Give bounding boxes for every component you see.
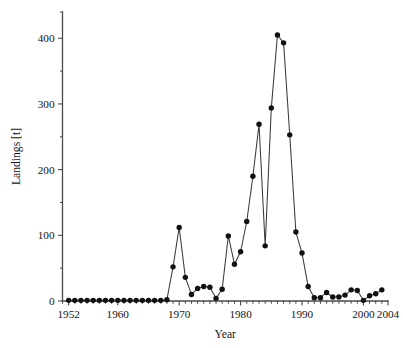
x-axis-title: Year: [215, 328, 237, 341]
x-tick-label: 1980: [229, 308, 252, 320]
data-point-marker: [226, 233, 231, 238]
data-point-marker: [183, 275, 188, 280]
data-point-marker: [244, 219, 249, 224]
data-point-marker: [238, 249, 243, 254]
axis-ticks: [58, 12, 388, 306]
data-point-marker: [299, 250, 304, 255]
data-point-marker: [318, 295, 323, 300]
data-point-marker: [269, 105, 274, 110]
data-point-marker: [367, 293, 372, 298]
y-tick-label: 200: [38, 164, 55, 176]
data-point-marker: [201, 284, 206, 289]
y-tick-label: 400: [38, 32, 55, 44]
y-axis-title: Landings [t]: [10, 128, 23, 185]
data-point-marker: [348, 287, 353, 292]
y-tick-label: 100: [38, 229, 55, 241]
axis-tick-labels: 0100200300400195219601970198019902000200…: [38, 32, 400, 319]
data-point-marker: [121, 298, 126, 303]
data-point-marker: [232, 262, 237, 267]
data-point-marker: [379, 287, 384, 292]
data-point-marker: [140, 298, 145, 303]
x-tick-label: 2000: [352, 308, 375, 320]
data-point-marker: [275, 32, 280, 37]
data-point-marker: [262, 243, 267, 248]
axes: [63, 12, 389, 301]
data-point-marker: [78, 298, 83, 303]
data-point-marker: [195, 286, 200, 291]
data-point-marker: [324, 290, 329, 295]
data-point-marker: [361, 298, 366, 303]
x-tick-label: 1952: [57, 308, 79, 320]
y-tick-label: 0: [49, 295, 55, 307]
data-point-marker: [305, 284, 310, 289]
data-point-marker: [373, 291, 378, 296]
data-point-marker: [72, 298, 77, 303]
data-point-marker: [219, 286, 224, 291]
data-point-marker: [103, 298, 108, 303]
data-point-marker: [213, 296, 218, 301]
data-point-marker: [281, 40, 286, 45]
data-point-marker: [189, 292, 194, 297]
data-point-marker: [152, 298, 157, 303]
data-point-marker: [127, 298, 132, 303]
data-point-marker: [134, 298, 139, 303]
data-point-marker: [207, 285, 212, 290]
data-point-marker: [312, 295, 317, 300]
data-point-marker: [342, 292, 347, 297]
data-point-marker: [91, 298, 96, 303]
data-point-marker: [287, 132, 292, 137]
data-point-marker: [97, 298, 102, 303]
data-point-marker: [355, 288, 360, 293]
data-point-marker: [84, 298, 89, 303]
data-point-marker: [176, 225, 181, 230]
chart-figure: 0100200300400195219601970198019902000200…: [0, 0, 403, 348]
data-point-marker: [293, 229, 298, 234]
data-point-marker: [164, 297, 169, 302]
series-line-landings: [69, 35, 382, 300]
x-tick-label: 1960: [107, 308, 130, 320]
data-point-marker: [158, 298, 163, 303]
data-point-marker: [146, 298, 151, 303]
data-point-marker: [336, 294, 341, 299]
x-tick-label: 1970: [168, 308, 191, 320]
data-series-landings: [66, 32, 385, 303]
landings-line-chart: 0100200300400195219601970198019902000200…: [0, 0, 403, 348]
data-point-marker: [66, 298, 71, 303]
x-tick-label: 2004: [377, 308, 400, 320]
data-point-marker: [170, 264, 175, 269]
data-point-marker: [330, 294, 335, 299]
data-point-marker: [115, 298, 120, 303]
data-point-marker: [256, 122, 261, 127]
data-point-marker: [250, 174, 255, 179]
y-tick-label: 300: [38, 98, 55, 110]
data-point-marker: [109, 298, 114, 303]
x-tick-label: 1990: [291, 308, 314, 320]
